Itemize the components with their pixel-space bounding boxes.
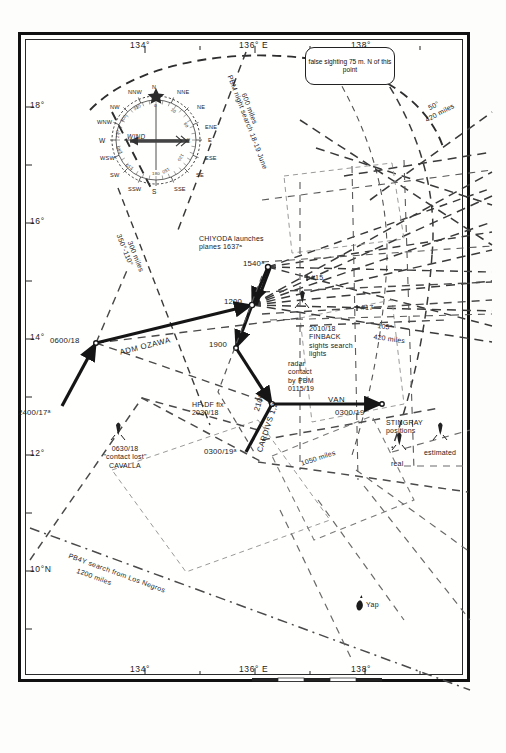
compass-point-E: E xyxy=(208,137,212,143)
compass-degree-270: 270 xyxy=(116,130,121,138)
axis-label-lon-top-136: 136° E xyxy=(239,41,268,50)
compass-point-WSW: WSW xyxy=(100,155,115,161)
search-box-lower xyxy=(112,420,330,572)
compass-point-W: W xyxy=(99,137,105,144)
cavalla-label: 0630/18 "contact lost" CAVALLA xyxy=(82,445,168,470)
compass-degree-90: 90 xyxy=(185,138,190,143)
compass-point-NW: NW xyxy=(110,104,120,110)
track-fix-0600-18: 0600/18 xyxy=(50,337,80,345)
axis-label-lon-bottom-136: 136° E xyxy=(239,665,268,674)
plotting-grid-east xyxy=(262,160,492,480)
axis-label-lat-10N: 10°N xyxy=(30,565,51,574)
latitude-ticks xyxy=(26,107,34,629)
track-fix-1540: 1540ᵃ xyxy=(243,260,264,268)
compass-point-ENE: ENE xyxy=(205,124,217,130)
sub-17-label: #17 xyxy=(361,304,373,312)
chart-page: 134° 136° E 138° 134° 136° E 138° 18° 16… xyxy=(0,0,506,753)
compass-point-NE: NE xyxy=(197,104,205,110)
compass-point-SSE: SSE xyxy=(174,186,186,192)
search-line-350-110 xyxy=(118,188,210,425)
radar-contact-label: radar contact by PBM 0115/19 xyxy=(288,360,314,394)
yap-island xyxy=(356,595,363,611)
stingray-real-label: real xyxy=(391,460,403,468)
compass-point-WNW: WNW xyxy=(97,119,112,125)
search-fan-from-1200 xyxy=(252,172,492,342)
hfdf-fix-label: HF-DF fix 2030/18 xyxy=(192,401,224,418)
compass-point-SSW: SSW xyxy=(128,186,141,192)
compass-degree-0: 0 xyxy=(154,104,157,109)
compass-point-SW: SW xyxy=(110,172,119,178)
sub-15-label: #15 xyxy=(311,274,323,282)
axis-label-lat-16: 16° xyxy=(30,217,45,226)
sub-symbol-stingray-estimated xyxy=(433,423,447,441)
compass-point-NNW: NNW xyxy=(128,89,142,95)
fleet-track-heavy xyxy=(62,267,382,452)
axis-label-lat-12: 12° xyxy=(30,449,45,458)
sub-symbol-cavalla xyxy=(111,423,125,441)
sub-symbol-finback xyxy=(295,291,309,309)
cavalla-track-dashed xyxy=(30,398,262,560)
search-box-upper xyxy=(284,163,404,253)
stingray-estimated-label: estimated xyxy=(424,449,456,457)
stingray-label: STINGRAY positions xyxy=(386,419,423,436)
compass-point-NNE: NNE xyxy=(177,89,189,95)
compass-point-N: N xyxy=(152,84,156,90)
track-fix-0300-19a: 0300/19ᵃ xyxy=(204,448,237,456)
axis-label-lon-top-134: 134° xyxy=(130,41,150,50)
axis-label-lat-18: 18° xyxy=(30,101,45,110)
scale-bar xyxy=(252,678,382,681)
yap-label: Yap xyxy=(366,601,379,609)
axis-label-lat-14: 14° xyxy=(30,333,45,342)
search-fan-50deg xyxy=(300,112,492,245)
track-fix-2400-17: 2400/17ᵃ xyxy=(18,409,51,417)
finback-label: 2010/18 FINBACK sights search lights xyxy=(309,325,353,359)
track-fix-1200: 1200 xyxy=(224,298,242,306)
compass-degree-180: 180 xyxy=(152,172,160,177)
track-fix-1900: 1900 xyxy=(209,341,227,349)
track-fix-0300-19: 0300/19 xyxy=(335,409,365,417)
compass-point-ESE: ESE xyxy=(205,155,217,161)
wind-label: WIND xyxy=(127,134,146,141)
compass-point-S: S xyxy=(152,188,157,195)
axis-label-lon-bottom-134: 134° xyxy=(130,665,150,674)
compass-point-SE: SE xyxy=(196,172,204,178)
chiyoda-label: CHIYODA launches planes 1637ᵃ xyxy=(199,235,264,252)
axis-label-lon-bottom-138: 138° xyxy=(351,665,371,674)
false-sighting-callout: false sighting 75 m. N of this point xyxy=(305,47,395,85)
van-label: VAN xyxy=(328,396,345,404)
